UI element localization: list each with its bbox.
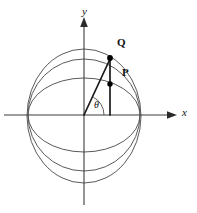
point-q-dot [107,55,113,61]
point-q-label: Q [117,37,126,48]
x-axis-label: x [182,107,187,118]
x-axis-arrow-right-icon [167,111,177,119]
y-axis-label: y [82,6,87,17]
sphere-diagram-figure: y x Q P θ [0,0,197,213]
point-p-dot [107,81,112,86]
theta-angle-label: θ [94,100,99,110]
y-axis-arrow-up-icon [80,17,88,27]
point-p-label: P [122,67,129,78]
